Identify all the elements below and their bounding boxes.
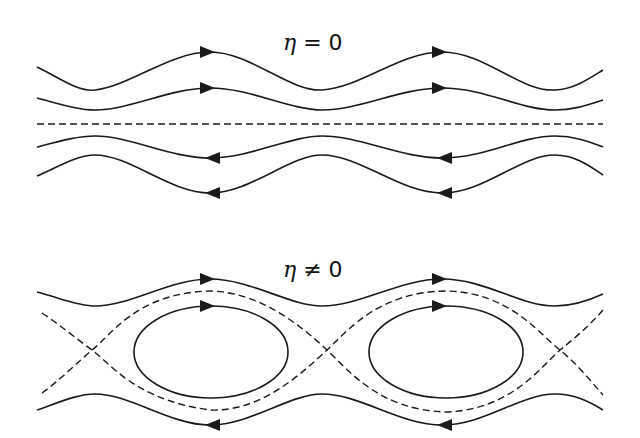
flow-diagram xyxy=(0,0,640,438)
value: 0 xyxy=(329,257,343,282)
relation: = xyxy=(296,30,328,55)
arrowhead-icon xyxy=(200,46,452,199)
flow-line-left-2 xyxy=(37,155,603,193)
bottom-panel xyxy=(37,273,603,431)
relation: ≠ xyxy=(296,257,328,282)
flow-line-right-1 xyxy=(37,52,603,90)
island-orbit-1 xyxy=(134,306,288,398)
flow-line-right-2 xyxy=(37,88,603,110)
eta-symbol: η xyxy=(283,257,296,282)
top-panel xyxy=(37,46,603,199)
panel-label-eta-nonzero: η ≠ 0 xyxy=(283,257,343,282)
eta-symbol: η xyxy=(283,30,296,55)
outer-flow-line-bottom xyxy=(37,394,603,425)
island-orbit-2 xyxy=(369,306,523,398)
panel-label-eta-zero: η = 0 xyxy=(283,30,343,55)
value: 0 xyxy=(329,30,343,55)
outer-flow-line-top xyxy=(37,279,603,306)
